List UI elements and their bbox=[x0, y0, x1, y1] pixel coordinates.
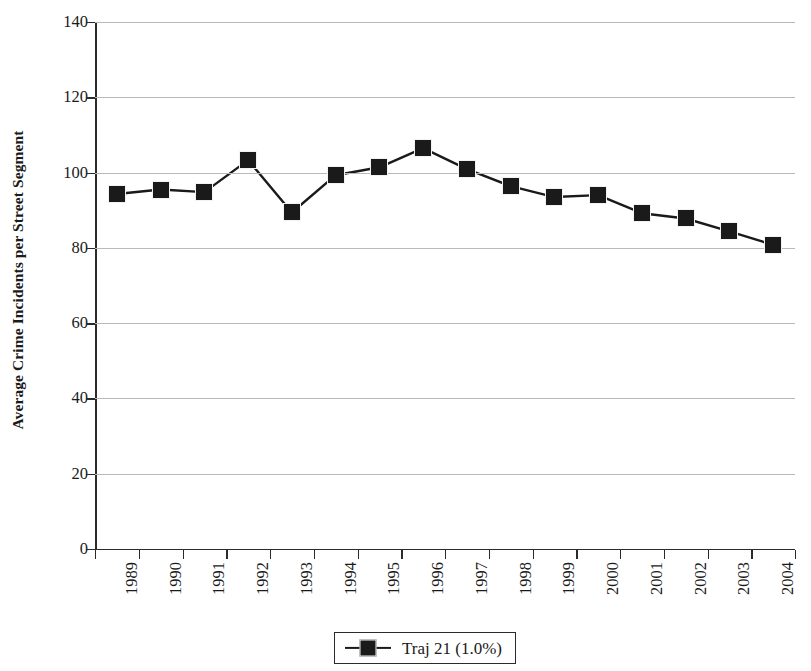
y-axis-tick-mark bbox=[86, 474, 95, 475]
x-axis-tick-mark bbox=[314, 550, 315, 559]
y-axis-tick-mark bbox=[86, 173, 95, 174]
x-axis-tick-label: 1994 bbox=[343, 562, 360, 595]
x-axis-tick-mark bbox=[226, 550, 227, 559]
legend-entry-label: Traj 21 (1.0%) bbox=[402, 640, 502, 657]
x-axis-tick-label: 1998 bbox=[518, 562, 535, 595]
y-axis-tick-mark bbox=[86, 248, 95, 249]
x-axis-tick-mark bbox=[795, 550, 796, 559]
legend: Traj 21 (1.0%) bbox=[334, 632, 516, 664]
x-axis-tick-label: 1989 bbox=[124, 562, 141, 595]
x-axis-tick-label: 1999 bbox=[561, 562, 578, 595]
x-axis-tick-mark bbox=[708, 550, 709, 559]
x-axis-tick-mark bbox=[445, 550, 446, 559]
legend-square-marker-icon bbox=[360, 640, 377, 657]
crime-trajectory-line-chart: Average Crime Incidents per Street Segme… bbox=[0, 0, 811, 671]
y-axis-tick-mark bbox=[86, 22, 95, 23]
x-axis-tick-label: 1995 bbox=[386, 562, 403, 595]
x-axis-tick-mark bbox=[751, 550, 752, 559]
x-axis-tick-mark bbox=[401, 550, 402, 559]
x-axis-tick-label: 2003 bbox=[736, 562, 753, 595]
x-axis-tick-mark bbox=[489, 550, 490, 559]
legend-marker-icon bbox=[345, 639, 391, 657]
x-axis-tick-label: 2002 bbox=[693, 562, 710, 595]
x-axis-tick-label: 1991 bbox=[211, 562, 228, 595]
x-axis-tick-label: 2000 bbox=[605, 562, 622, 595]
x-axis-tick-mark bbox=[664, 550, 665, 559]
x-axis-tick-label: 1996 bbox=[430, 562, 447, 595]
x-axis-tick-label: 2001 bbox=[649, 562, 666, 595]
x-axis-tick-label: 1990 bbox=[168, 562, 185, 595]
x-axis-tick-mark bbox=[139, 550, 140, 559]
x-axis-tick-label: 1992 bbox=[255, 562, 272, 595]
x-axis-tick-label: 2004 bbox=[780, 562, 797, 595]
x-axis-tick-mark bbox=[576, 550, 577, 559]
x-axis-tick-mark bbox=[358, 550, 359, 559]
x-axis-tick-mark bbox=[533, 550, 534, 559]
y-axis-tick-mark bbox=[86, 323, 95, 324]
x-axis-tick-labels: 1989199019911992199319941995199619971998… bbox=[0, 0, 811, 671]
y-axis-tick-mark bbox=[86, 97, 95, 98]
x-axis-tick-mark bbox=[270, 550, 271, 559]
x-axis-tick-label: 1997 bbox=[474, 562, 491, 595]
y-axis-tick-mark bbox=[86, 398, 95, 399]
x-axis-tick-mark bbox=[95, 550, 96, 559]
x-axis-tick-mark bbox=[183, 550, 184, 559]
x-axis-tick-mark bbox=[620, 550, 621, 559]
y-axis-tick-mark bbox=[86, 549, 95, 550]
x-axis-tick-label: 1993 bbox=[299, 562, 316, 595]
